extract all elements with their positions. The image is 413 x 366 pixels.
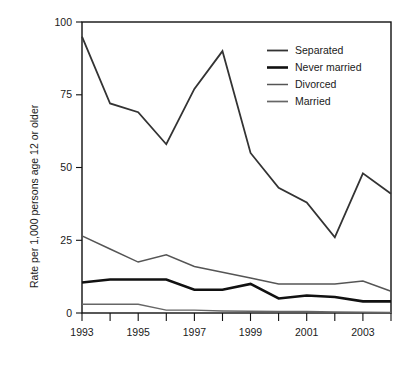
y-tick-label-25: 25	[60, 234, 72, 246]
y-tick-label-75: 75	[60, 88, 72, 100]
x-tick-label-1995: 1995	[127, 326, 151, 338]
legend-label-married: Married	[295, 95, 331, 107]
y-axis-title: Rate per 1,000 persons age 12 or older	[28, 104, 40, 288]
x-tickmarks	[82, 313, 391, 321]
legend-label-never-married: Never married	[295, 61, 362, 73]
chart-legend: Separated Never married Divorced Married	[267, 44, 362, 107]
y-tickmarks	[76, 22, 82, 313]
series-line-married	[82, 304, 391, 312]
legend-item-separated[interactable]: Separated	[267, 44, 344, 56]
legend-item-married[interactable]: Married	[267, 95, 331, 107]
series-group	[82, 37, 391, 313]
x-tick-label-1997: 1997	[183, 326, 207, 338]
legend-label-divorced: Divorced	[295, 78, 337, 90]
x-tick-label-1993: 1993	[70, 326, 94, 338]
series-line-divorced	[82, 236, 391, 291]
x-tick-label-2001: 2001	[295, 326, 319, 338]
line-chart: Rate per 1,000 persons age 12 or older 1…	[0, 0, 413, 366]
x-tick-label-2003: 2003	[351, 326, 375, 338]
y-tick-label-0: 0	[66, 307, 72, 319]
y-tick-label-100: 100	[54, 16, 72, 28]
legend-item-divorced[interactable]: Divorced	[267, 78, 337, 90]
legend-label-separated: Separated	[295, 44, 344, 56]
legend-item-never-married[interactable]: Never married	[267, 61, 362, 73]
x-tick-label-1999: 1999	[239, 326, 263, 338]
y-tick-label-50: 50	[60, 161, 72, 173]
chart-container: Rate per 1,000 persons age 12 or older 1…	[0, 0, 413, 366]
